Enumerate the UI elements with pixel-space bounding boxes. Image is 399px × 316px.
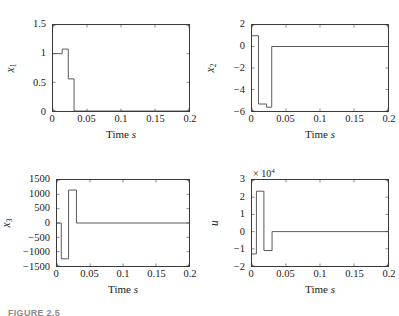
y-axis-exponent-label-u: × 104 xyxy=(253,167,275,179)
x-tick-label: 0.15 xyxy=(147,269,165,280)
y-tick-label: 2 xyxy=(240,191,245,202)
y-tick-label: −1 xyxy=(234,244,245,255)
plot-panel-x1: 00.511.5 x1 00.050.10.150.2 Time s xyxy=(0,2,199,157)
x-tick-label: 0.2 xyxy=(183,269,196,280)
y-axis-label-u: u xyxy=(208,220,220,226)
x-axis-ticks-x1: 00.050.10.150.2 xyxy=(52,114,190,128)
y-tick-label: −4 xyxy=(234,85,245,96)
figure-caption: FIGURE 2.5 xyxy=(8,308,60,316)
x-tick-label: 0.1 xyxy=(313,114,326,125)
y-tick-label: 500 xyxy=(34,203,50,214)
x-tick-label: 0 xyxy=(248,269,253,280)
x-axis-ticks-u: 00.050.10.150.2 xyxy=(251,269,389,283)
axes-frame-u xyxy=(251,179,389,267)
axes-frame-x3 xyxy=(56,179,190,267)
plot-panel-x3: −1500−1000−500050010001500 x3 00.050.10.… xyxy=(0,157,199,312)
y-tick-label: 3 xyxy=(240,174,245,185)
x-tick-label: 0.2 xyxy=(382,114,395,125)
y-tick-label: −2 xyxy=(234,262,245,273)
x-axis-label-x2: Time s xyxy=(251,128,389,140)
axes-frame-x2 xyxy=(251,24,389,112)
plot-area-u xyxy=(252,180,388,266)
y-tick-label: 1000 xyxy=(29,188,50,199)
y-tick-label: −500 xyxy=(28,232,50,243)
figure-container: 00.511.5 x1 00.050.10.150.2 Time s −6−4−… xyxy=(0,0,399,316)
y-tick-label: −2 xyxy=(234,63,245,74)
x-axis-ticks-x3: 00.050.10.150.2 xyxy=(56,269,190,283)
axes-frame-x1 xyxy=(52,24,190,112)
y-tick-label: 0 xyxy=(45,218,50,229)
y-tick-label: 0.5 xyxy=(33,77,46,88)
x-tick-label: 0.1 xyxy=(116,269,129,280)
x-tick-label: 0.15 xyxy=(345,269,363,280)
y-tick-label: 1 xyxy=(240,209,245,220)
y-tick-label: 1500 xyxy=(29,174,50,185)
x-axis-label-x1: Time s xyxy=(52,128,190,140)
y-tick-label: 0 xyxy=(41,107,46,118)
x-tick-label: 0.15 xyxy=(146,114,164,125)
y-tick-label: −1000 xyxy=(23,247,50,258)
x-axis-label-x3: Time s xyxy=(56,283,190,295)
data-series-line xyxy=(252,36,388,107)
x-tick-label: 0 xyxy=(248,114,253,125)
x-tick-label: 0.1 xyxy=(313,269,326,280)
y-tick-label: 1 xyxy=(41,48,46,59)
y-axis-label-x3: x3 xyxy=(0,219,12,228)
x-axis-label-u: Time s xyxy=(251,283,389,295)
data-series-line xyxy=(57,190,189,259)
x-tick-label: 0.05 xyxy=(276,269,294,280)
y-tick-label: 0 xyxy=(240,227,245,238)
x-axis-ticks-x2: 00.050.10.150.2 xyxy=(251,114,389,128)
plot-panel-u: × 104 −2−10123 u 00.050.10.150.2 Time s xyxy=(199,157,398,312)
x-tick-label: 0.05 xyxy=(77,114,95,125)
plot-area-x2 xyxy=(252,25,388,111)
y-tick-label: 1.5 xyxy=(33,19,46,30)
y-tick-label: −1500 xyxy=(23,262,50,273)
x-tick-label: 0.1 xyxy=(114,114,127,125)
x-tick-label: 0 xyxy=(49,114,54,125)
plot-panel-x2: −6−4−202 x2 00.050.10.150.2 Time s xyxy=(199,2,398,157)
x-tick-label: 0.2 xyxy=(183,114,196,125)
y-axis-label-x1: x1 xyxy=(4,64,16,73)
x-tick-label: 0.2 xyxy=(382,269,395,280)
y-axis-label-x2: x2 xyxy=(204,64,216,73)
plot-area-x3 xyxy=(57,180,189,266)
x-tick-label: 0 xyxy=(53,269,58,280)
x-tick-label: 0.05 xyxy=(80,269,98,280)
data-series-line xyxy=(252,191,388,254)
y-tick-label: −6 xyxy=(234,107,245,118)
data-series-line xyxy=(53,49,189,111)
plot-area-x1 xyxy=(53,25,189,111)
y-axis-ticks-u: −2−10123 xyxy=(199,179,249,267)
x-tick-label: 0.15 xyxy=(345,114,363,125)
y-tick-label: 0 xyxy=(240,41,245,52)
y-tick-label: 2 xyxy=(240,19,245,30)
x-tick-label: 0.05 xyxy=(276,114,294,125)
